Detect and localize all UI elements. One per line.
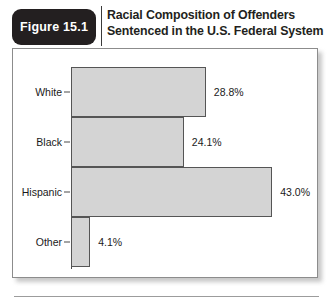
chart-panel: White28.8%Black24.1%Hispanic43.0%Other4.…: [12, 48, 318, 278]
category-label: Hispanic: [22, 186, 62, 198]
bar-row: White28.8%: [71, 67, 291, 117]
category-label: Other: [36, 236, 62, 248]
title-divider-rule: [101, 6, 102, 46]
bar-row: Other4.1%: [71, 217, 291, 267]
bar-other: [71, 217, 90, 267]
plot-area: White28.8%Black24.1%Hispanic43.0%Other4.…: [13, 49, 317, 277]
figure-header: Figure 15.1 Racial Composition of Offend…: [0, 0, 331, 48]
bar-value-label: 28.8%: [214, 86, 244, 98]
bar-value-label: 43.0%: [280, 186, 310, 198]
axis-tick-mark: [64, 142, 70, 143]
bar-black: [71, 117, 184, 167]
bar-row: Hispanic43.0%: [71, 167, 291, 217]
figure-title-line-1: Racial Composition of Offenders: [107, 7, 327, 23]
bar-hispanic: [71, 167, 272, 217]
figure-number-badge: Figure 15.1: [12, 9, 96, 45]
figure-title: Racial Composition of Offenders Sentence…: [107, 7, 327, 39]
axis-tick-mark: [64, 242, 70, 243]
bar-value-label: 4.1%: [98, 236, 122, 248]
bar-row: Black24.1%: [71, 117, 291, 167]
axis-tick-mark: [64, 92, 70, 93]
footer-divider-rule: [14, 296, 319, 297]
category-label: White: [35, 86, 62, 98]
bar-value-label: 24.1%: [192, 136, 222, 148]
figure-title-line-2: Sentenced in the U.S. Federal System: [107, 23, 327, 39]
category-label: Black: [36, 136, 62, 148]
bar-white: [71, 67, 206, 117]
figure-container: Figure 15.1 Racial Composition of Offend…: [0, 0, 331, 302]
axis-tick-mark: [64, 192, 70, 193]
